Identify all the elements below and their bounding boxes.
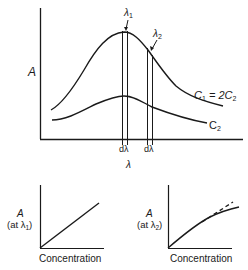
inset-right-y-label: A — [145, 208, 153, 219]
main-y-axis-label: A — [27, 65, 36, 79]
bandwidth-label-1: dλ — [119, 144, 129, 154]
lambda2-label: λ2 — [152, 28, 162, 40]
inset-right-y-sublabel: (at λ2) — [137, 219, 162, 231]
inset-left-plot: A (at λ1) Concentration — [7, 185, 104, 264]
inset-right-plot: A (at λ2) Concentration — [137, 185, 239, 264]
main-plot: A λ1 λ2 C1 = 2C2 C2 dλ dλ λ — [27, 7, 243, 170]
inset-left-line — [40, 203, 99, 248]
curve-c2-label: C2 — [209, 119, 221, 132]
inset-left-x-label: Concentration — [39, 253, 101, 264]
bandwidth-label-2: dλ — [144, 144, 154, 154]
lambda1-arrow-icon — [124, 20, 128, 31]
inset-left-y-label: A — [16, 208, 24, 219]
curve-c1-label: C1 = 2C2 — [194, 89, 236, 102]
inset-left-y-sublabel: (at λ1) — [7, 219, 32, 231]
curve-c2 — [52, 96, 207, 123]
absorbance-diagram: A λ1 λ2 C1 = 2C2 C2 dλ dλ λ A (at λ1) Co… — [0, 0, 248, 270]
lambda2-arrow-icon — [150, 40, 157, 51]
main-x-axis-label: λ — [125, 159, 131, 170]
inset-right-x-label: Concentration — [170, 253, 232, 264]
inset-right-curve — [168, 207, 239, 248]
lambda1-label: λ1 — [123, 7, 133, 19]
